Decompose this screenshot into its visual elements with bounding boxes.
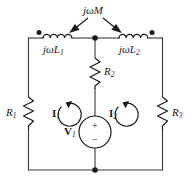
label-inductor-left-subscript: 1 <box>60 48 64 57</box>
label-resistor-r2: R2 <box>104 66 114 79</box>
label-inductor-right-base: jωL <box>119 43 136 55</box>
inductor-left-coil <box>43 34 72 38</box>
label-resistor-r1-subscript: 1 <box>13 111 17 120</box>
mesh-current-i2-arrowhead <box>123 101 130 108</box>
label-mesh-current-i1: I1 <box>52 108 60 121</box>
label-inductor-left-base: jωL <box>43 43 60 55</box>
label-resistor-r2-base: R <box>104 65 111 77</box>
label-source-voltage-base: V <box>64 125 72 137</box>
circuit-diagram: jωM jωL1 jωL2 R1 R2 R3 I1 I2 V1 + − <box>0 0 191 181</box>
mesh-current-i1-arc <box>58 103 81 126</box>
label-mutual-inductance: jωM <box>83 5 103 16</box>
mesh-current-i1-arrowhead <box>66 101 73 108</box>
label-mesh-current-i1-subscript: 1 <box>56 112 60 121</box>
label-mesh-current-i2: I2 <box>109 108 117 121</box>
source-minus-sign: − <box>92 135 98 145</box>
node-top-center <box>92 35 98 41</box>
source-plus-sign: + <box>92 121 98 131</box>
label-inductor-right-subscript: 2 <box>136 48 140 57</box>
circuit-schematic-svg <box>0 0 191 181</box>
label-source-voltage: V1 <box>64 126 76 139</box>
label-resistor-r1: R1 <box>6 107 16 120</box>
inductor-right-coil <box>119 34 148 38</box>
label-mesh-current-i2-subscript: 2 <box>113 112 117 121</box>
mesh-current-i2-arc <box>115 103 138 126</box>
polarity-dot-left <box>37 30 42 35</box>
node-bottom-center <box>92 167 98 173</box>
resistor-r2-symbol <box>90 58 100 89</box>
label-inductor-right: jωL2 <box>119 44 140 57</box>
label-resistor-r3: R3 <box>172 107 182 120</box>
resistor-r3-symbol <box>158 97 168 130</box>
polarity-dot-right <box>150 30 155 35</box>
label-inductor-left: jωL1 <box>43 44 64 57</box>
label-resistor-r1-base: R <box>6 106 13 118</box>
label-source-voltage-subscript: 1 <box>72 130 76 139</box>
label-resistor-r3-base: R <box>172 106 179 118</box>
label-resistor-r3-subscript: 3 <box>179 111 183 120</box>
resistor-r1-symbol <box>24 97 34 130</box>
label-resistor-r2-subscript: 2 <box>111 70 115 79</box>
